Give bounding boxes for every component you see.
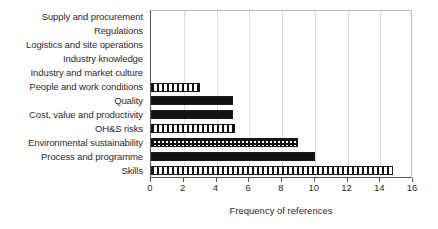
category-label: OH&S risks xyxy=(0,122,148,136)
bar xyxy=(151,110,233,119)
category-label: Skills xyxy=(0,164,148,178)
x-tick-label: 4 xyxy=(213,183,218,193)
bar xyxy=(151,152,315,161)
bar-row xyxy=(151,11,411,25)
category-label: People and work conditions xyxy=(0,80,148,94)
bar-row xyxy=(151,66,411,80)
x-tick-label: 2 xyxy=(180,183,185,193)
bar-row xyxy=(151,52,411,66)
category-label: Cost, value and productivity xyxy=(0,108,148,122)
bar-row xyxy=(151,80,411,94)
bar-row xyxy=(151,108,411,122)
bar-series xyxy=(151,11,411,177)
bar-row xyxy=(151,135,411,149)
bar-row xyxy=(151,94,411,108)
x-axis-title: Frequency of references xyxy=(150,205,412,216)
bar xyxy=(151,83,200,92)
bar xyxy=(151,166,393,175)
x-tick-label: 14 xyxy=(374,183,385,193)
category-label: Supply and procurement xyxy=(0,10,148,24)
bar-row xyxy=(151,122,411,136)
category-label: Environmental sustainability xyxy=(0,136,148,150)
category-axis-labels: Supply and procurementRegulationsLogisti… xyxy=(0,10,148,178)
bar-row xyxy=(151,149,411,163)
category-label: Regulations xyxy=(0,24,148,38)
plot-area xyxy=(150,10,412,178)
category-label: Industry knowledge xyxy=(0,52,148,66)
bar xyxy=(151,124,235,133)
bar-row xyxy=(151,25,411,39)
category-label: Logistics and site operations xyxy=(0,38,148,52)
bar-chart-figure: Supply and procurementRegulationsLogisti… xyxy=(0,0,438,229)
x-tick-label: 10 xyxy=(308,183,319,193)
bar-row xyxy=(151,163,411,177)
x-tick-label: 12 xyxy=(341,183,352,193)
category-label: Quality xyxy=(0,94,148,108)
bar xyxy=(151,138,298,147)
x-tick-label: 0 xyxy=(147,183,152,193)
category-label: Industry and market culture xyxy=(0,66,148,80)
category-label: Process and programme xyxy=(0,150,148,164)
x-axis-tick-labels: 0246810121416 xyxy=(150,183,412,197)
bar-row xyxy=(151,39,411,53)
x-tick-label: 8 xyxy=(278,183,283,193)
x-tick-label: 16 xyxy=(407,183,418,193)
x-tick-label: 6 xyxy=(246,183,251,193)
bar xyxy=(151,96,233,105)
